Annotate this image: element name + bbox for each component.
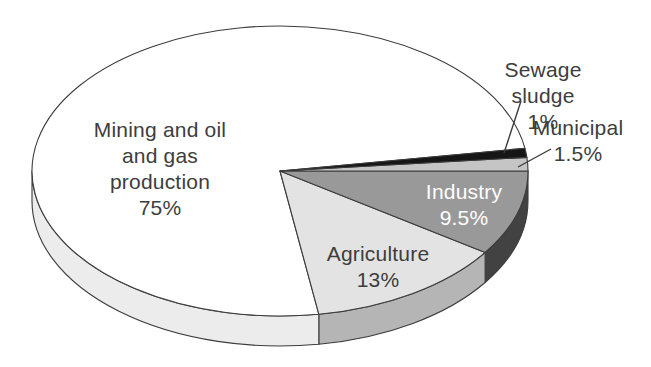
slice-label-mining-oil-gas: Mining and oil and gas production 75% [94,117,226,221]
slice-label-agriculture: Agriculture 13% [327,241,430,293]
slice-label-municipal: Municipal 1.5% [533,115,624,167]
slice-label-industry: Industry 9.5% [426,179,502,231]
pie-chart-figure: Mining and oil and gas production 75% Se… [0,0,651,367]
